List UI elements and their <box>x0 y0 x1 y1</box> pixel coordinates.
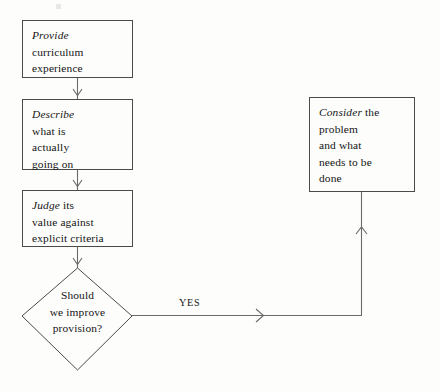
node-describe-line-2: what is <box>32 123 132 140</box>
node-provide-line-2: curriculum <box>32 44 132 61</box>
node-decision-line-3: provision? <box>22 320 133 337</box>
node-consider-lead: Consider <box>319 106 362 118</box>
node-describe-line-3: actually <box>32 139 132 156</box>
node-judge-lead: Judge <box>32 199 60 211</box>
node-describe-line-1: Describe <box>32 106 132 123</box>
edge-label-yes: YES <box>179 297 200 308</box>
node-consider-line-3: and what <box>319 137 414 154</box>
node-consider-line-2: problem <box>319 121 414 138</box>
node-describe-line-4: going on <box>32 156 132 173</box>
node-provide-line-3: experience <box>32 60 132 77</box>
node-consider-line-5: done <box>319 170 414 187</box>
node-describe-lead: Describe <box>32 108 74 120</box>
node-describe: Describe what is actually going on <box>22 99 133 170</box>
node-provide-lead: Provide <box>32 29 69 41</box>
node-judge-line-3: explicit criteria <box>32 230 132 247</box>
flowchart-canvas: Provide curriculum experience Describe w… <box>0 0 440 392</box>
node-decision-line-1: Should <box>22 287 133 304</box>
node-consider-line-4: needs to be <box>319 154 414 171</box>
node-judge-line-2: value against <box>32 214 132 231</box>
node-consider: Consider the problem and what needs to b… <box>309 97 415 192</box>
node-judge: Judge its value against explicit criteri… <box>22 190 133 247</box>
node-judge-lead-tail: its <box>60 199 74 211</box>
node-judge-line-1: Judge its <box>32 197 132 214</box>
node-consider-line-1: Consider the <box>319 104 414 121</box>
node-consider-lead-tail: the <box>362 106 379 118</box>
node-decision-label: Should we improve provision? <box>22 287 133 337</box>
node-decision-line-2: we improve <box>22 304 133 321</box>
node-provide: Provide curriculum experience <box>22 20 133 78</box>
node-provide-line-1: Provide <box>32 27 132 44</box>
